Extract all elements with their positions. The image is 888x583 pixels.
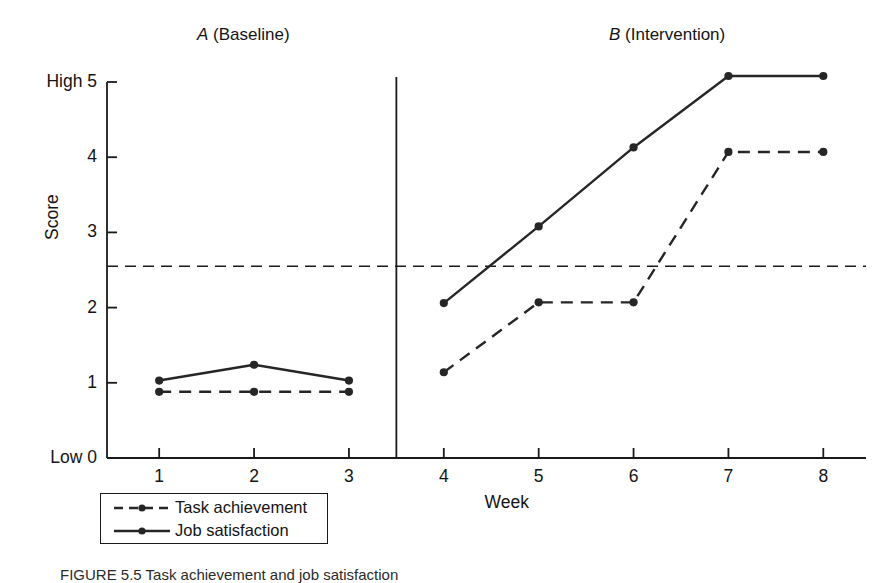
legend-label-job-satisfaction: Job satisfaction bbox=[175, 521, 289, 540]
legend-label-task-achievement: Task achievement bbox=[175, 498, 307, 517]
legend-item-task-achievement: Task achievement bbox=[101, 496, 329, 520]
data-series-group bbox=[155, 72, 827, 396]
data-point bbox=[345, 388, 353, 396]
series-line bbox=[444, 152, 824, 372]
data-point bbox=[535, 222, 543, 230]
y-tick-label: 1 bbox=[87, 372, 97, 393]
x-tick-label: 6 bbox=[609, 466, 659, 487]
y-tick-label: Low 0 bbox=[50, 447, 97, 468]
y-tick-label: 4 bbox=[87, 146, 97, 167]
x-tick-label: 3 bbox=[324, 466, 374, 487]
data-point bbox=[629, 298, 637, 306]
x-tick-label: 7 bbox=[703, 466, 753, 487]
data-point bbox=[155, 388, 163, 396]
legend-swatch-solid bbox=[113, 519, 171, 543]
data-point bbox=[629, 143, 637, 151]
data-point bbox=[535, 298, 543, 306]
data-point bbox=[250, 361, 258, 369]
data-point bbox=[440, 299, 448, 307]
data-point bbox=[155, 376, 163, 384]
data-point bbox=[724, 72, 732, 80]
figure-caption: FIGURE 5.5 Task achievement and job sati… bbox=[60, 566, 860, 583]
x-tick-label: 1 bbox=[134, 466, 184, 487]
x-tick-label: 8 bbox=[798, 466, 848, 487]
y-tick-label: 2 bbox=[87, 297, 97, 318]
series-line bbox=[444, 76, 824, 303]
chart-legend: Task achievement Job satisfaction bbox=[100, 493, 328, 544]
data-point bbox=[345, 376, 353, 384]
x-axis-title: Week bbox=[485, 492, 529, 513]
data-point bbox=[819, 72, 827, 80]
x-tick-label: 2 bbox=[229, 466, 279, 487]
y-axis-title: Score bbox=[42, 194, 63, 240]
data-point bbox=[819, 148, 827, 156]
data-point bbox=[250, 388, 258, 396]
legend-swatch-dashed bbox=[113, 496, 171, 520]
y-tick-label: High 5 bbox=[46, 71, 97, 92]
series-job-satisfaction bbox=[155, 72, 827, 385]
y-tick-label: 3 bbox=[87, 221, 97, 242]
x-tick-label: 5 bbox=[514, 466, 564, 487]
data-point bbox=[440, 368, 448, 376]
data-point bbox=[724, 148, 732, 156]
series-task-achievement bbox=[155, 148, 827, 396]
legend-item-job-satisfaction: Job satisfaction bbox=[101, 519, 329, 543]
x-tick-label: 4 bbox=[419, 466, 469, 487]
